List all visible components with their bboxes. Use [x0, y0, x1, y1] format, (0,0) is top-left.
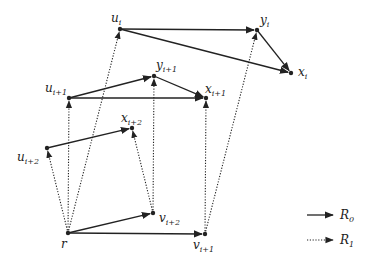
node-r: [66, 231, 70, 235]
node-label: ui+1: [45, 81, 67, 97]
r1-edge: [205, 33, 256, 234]
r0-edges: [47, 29, 289, 234]
node-label: yi: [259, 13, 270, 29]
node-labels: uiyixiui+1yi+1xi+1xi+2ui+2vi+2rvi+1: [17, 11, 308, 254]
r1-edge: [205, 101, 206, 234]
node-x_i: [289, 71, 293, 75]
node-label: xi+2: [121, 111, 142, 127]
node-u_iplus1: [67, 96, 71, 100]
node-label: yi+1: [155, 58, 177, 74]
r0-edge: [257, 30, 289, 71]
r0-edge: [68, 233, 202, 234]
r1-edge: [68, 101, 69, 233]
legend-r0: R0: [307, 208, 354, 224]
r0-edge: [154, 76, 203, 97]
node-y_iplus1: [152, 74, 156, 78]
nodes: [45, 27, 293, 236]
node-x_iplus1: [204, 96, 208, 100]
node-label: ui+2: [17, 150, 39, 166]
legend-r1: R1: [307, 233, 354, 249]
legend: R0 R1: [307, 208, 354, 249]
r0-edge: [120, 29, 254, 30]
node-v_iplus2: [151, 211, 155, 215]
r1-edges: [48, 32, 257, 234]
node-label: xi: [298, 65, 308, 81]
r0-edge: [68, 214, 150, 233]
node-y_i: [255, 28, 259, 32]
node-label: ui: [111, 11, 122, 27]
r1-edge: [133, 131, 153, 213]
r0-edge: [47, 129, 129, 148]
node-u_iplus2: [45, 146, 49, 150]
legend-r0-label: R0: [339, 208, 354, 224]
node-label: xi+1: [205, 82, 226, 98]
legend-r1-label: R1: [339, 233, 354, 249]
node-u_i: [118, 27, 122, 31]
node-label: r: [61, 237, 68, 251]
r1-edge: [153, 79, 154, 213]
node-v_iplus1: [203, 232, 207, 236]
r1-edge: [48, 151, 68, 233]
r0-edge: [69, 77, 151, 98]
node-label: vi+1: [193, 238, 214, 254]
r0-edge: [120, 29, 288, 72]
node-label: vi+2: [159, 211, 180, 227]
relation-graph-diagram: uiyixiui+1yi+1xi+1xi+2ui+2vi+2rvi+1 R0 R…: [0, 0, 371, 264]
